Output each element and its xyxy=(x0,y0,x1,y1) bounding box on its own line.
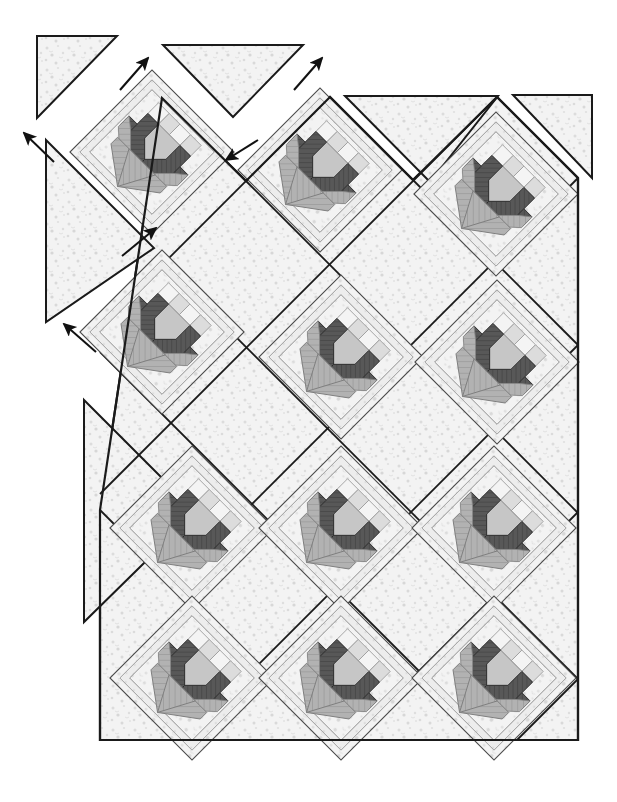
quilt-diagram-canvas: Quilt Assembly Diagram xyxy=(0,0,617,802)
arrow-3 xyxy=(294,58,322,90)
corner-triangle-top-left xyxy=(37,36,117,118)
quilt-assembly-svg: Quilt Assembly Diagram xyxy=(0,0,617,802)
